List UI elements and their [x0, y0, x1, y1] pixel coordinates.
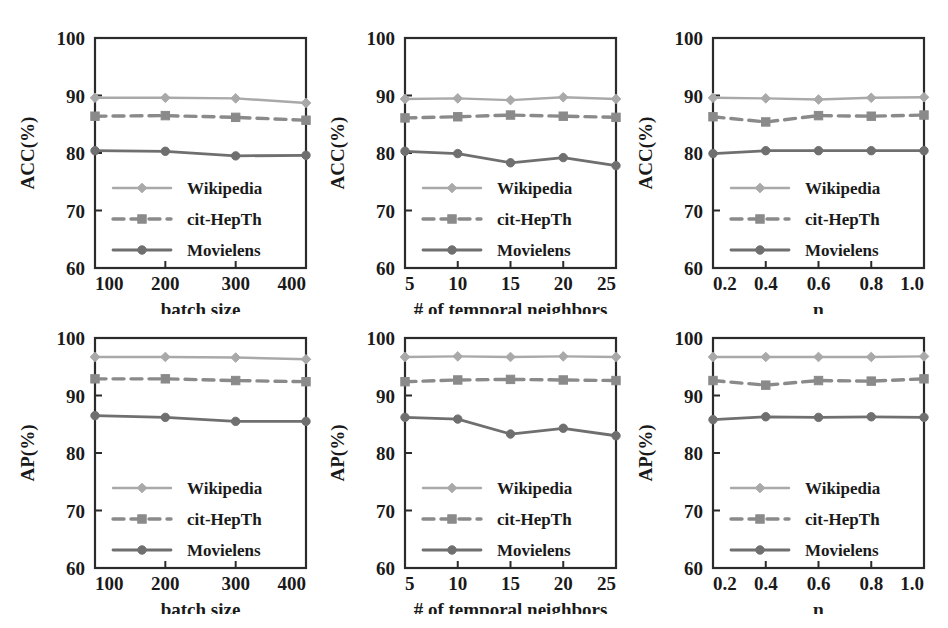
x-axis-title: # of temporal neighbors [414, 599, 608, 614]
data-point-wikipedia [708, 93, 718, 103]
legend-label-cit-hepth: cit-HepTh [187, 210, 262, 229]
data-point-wikipedia [161, 93, 171, 103]
data-point-cit-hepth [231, 376, 239, 384]
data-point-cit-hepth [814, 111, 822, 119]
x-tick-label: 0.4 [754, 573, 778, 594]
legend-label-cit-hepth: cit-HepTh [497, 210, 572, 229]
x-tick-label: 1.0 [900, 273, 924, 294]
x-tick-label: 0.8 [859, 273, 883, 294]
legend-marker-cit-hepth [448, 515, 456, 523]
y-tick-label: 70 [376, 501, 395, 522]
y-tick-label: 90 [376, 86, 395, 107]
chart-panel-acc-eta: 607080901000.20.40.60.81.0ηACC(%)Wikiped… [618, 0, 934, 314]
legend-label-cit-hepth: cit-HepTh [187, 510, 262, 529]
legend-marker-wikipedia [137, 183, 147, 193]
data-point-cit-hepth [762, 381, 770, 389]
data-point-cit-hepth [231, 113, 239, 121]
series-line-cit-hepth [95, 116, 306, 121]
legend-label-wikipedia: Wikipedia [497, 479, 573, 498]
data-point-movielens [302, 417, 310, 425]
series-line-wikipedia [95, 98, 306, 103]
chart-panel-ap-batch-size: 60708090100100200300400batch sizeAP(%)Wi… [0, 300, 316, 614]
chart-panel-ap-temporal-neighbors: 60708090100510152025# of temporal neighb… [310, 300, 626, 614]
data-point-cit-hepth [91, 112, 99, 120]
data-point-cit-hepth [709, 376, 717, 384]
legend-marker-cit-hepth [756, 215, 764, 223]
y-tick-label: 60 [66, 258, 85, 279]
y-axis-title: ACC(%) [17, 117, 39, 190]
y-tick-label: 90 [376, 386, 395, 407]
x-tick-label: 0.4 [754, 273, 778, 294]
data-point-movielens [91, 411, 99, 419]
data-point-wikipedia [231, 94, 241, 104]
data-point-wikipedia [761, 94, 771, 104]
data-point-wikipedia [453, 94, 463, 104]
data-point-movielens [559, 153, 567, 161]
x-tick-label: 0.8 [859, 573, 883, 594]
data-point-movielens [231, 417, 239, 425]
legend-label-wikipedia: Wikipedia [497, 179, 573, 198]
data-point-cit-hepth [506, 111, 514, 119]
x-tick-label: 0.2 [713, 273, 737, 294]
chart-acc-batch-size: 60708090100100200300400batch sizeACC(%)W… [0, 0, 316, 314]
legend-label-movielens: Movielens [187, 241, 261, 260]
x-tick-label: 10 [448, 273, 467, 294]
data-point-cit-hepth [867, 112, 875, 120]
data-point-cit-hepth [302, 378, 310, 386]
chart-ap-temporal-neighbors: 60708090100510152025# of temporal neighb… [310, 300, 626, 614]
y-tick-label: 60 [376, 258, 395, 279]
data-point-wikipedia [90, 93, 100, 103]
y-tick-label: 70 [376, 201, 395, 222]
data-point-movielens [559, 424, 567, 432]
y-tick-label: 100 [367, 328, 396, 349]
data-point-movielens [506, 159, 514, 167]
x-tick-label: 5 [405, 273, 415, 294]
x-tick-label: 15 [501, 573, 520, 594]
y-tick-label: 60 [376, 558, 395, 579]
y-tick-label: 90 [684, 386, 703, 407]
chart-ap-eta: 607080901000.20.40.60.81.0ηAP(%)Wikipedi… [618, 300, 934, 614]
legend-marker-cit-hepth [756, 515, 764, 523]
x-tick-label: 100 [95, 573, 124, 594]
data-point-movielens [161, 413, 169, 421]
x-tick-label: 20 [554, 273, 573, 294]
data-point-cit-hepth [709, 113, 717, 121]
y-tick-label: 80 [376, 143, 395, 164]
legend-label-movielens: Movielens [187, 541, 261, 560]
data-point-cit-hepth [559, 376, 567, 384]
y-tick-label: 80 [66, 443, 85, 464]
data-point-movielens [762, 147, 770, 155]
legend-marker-movielens [448, 246, 456, 254]
x-tick-label: 200 [151, 273, 180, 294]
legend-marker-cit-hepth [138, 215, 146, 223]
data-point-movielens [814, 413, 822, 421]
y-axis-title: ACC(%) [327, 117, 349, 190]
data-point-movielens [161, 147, 169, 155]
legend-marker-wikipedia [447, 483, 457, 493]
data-point-cit-hepth [401, 378, 409, 386]
y-tick-label: 70 [66, 201, 85, 222]
data-point-cit-hepth [867, 377, 875, 385]
data-point-wikipedia [506, 95, 516, 105]
legend-marker-movielens [756, 546, 764, 554]
data-point-movielens [920, 413, 928, 421]
x-tick-label: 25 [597, 273, 616, 294]
data-point-movielens [506, 430, 514, 438]
legend-label-wikipedia: Wikipedia [187, 479, 263, 498]
x-tick-label: 0.2 [713, 573, 737, 594]
data-point-movielens [401, 413, 409, 421]
y-axis-title: ACC(%) [635, 117, 657, 190]
legend-label-wikipedia: Wikipedia [805, 179, 881, 198]
data-point-cit-hepth [920, 375, 928, 383]
data-point-wikipedia [814, 352, 824, 362]
x-tick-label: 5 [405, 573, 415, 594]
data-point-cit-hepth [161, 111, 169, 119]
data-point-cit-hepth [401, 114, 409, 122]
data-point-wikipedia [453, 352, 463, 362]
legend-marker-wikipedia [447, 183, 457, 193]
series-line-wikipedia [95, 357, 306, 359]
chart-acc-temporal-neighbors: 60708090100510152025# of temporal neighb… [310, 0, 626, 314]
x-tick-label: 0.6 [807, 573, 831, 594]
x-tick-label: 20 [554, 573, 573, 594]
y-tick-label: 80 [684, 443, 703, 464]
